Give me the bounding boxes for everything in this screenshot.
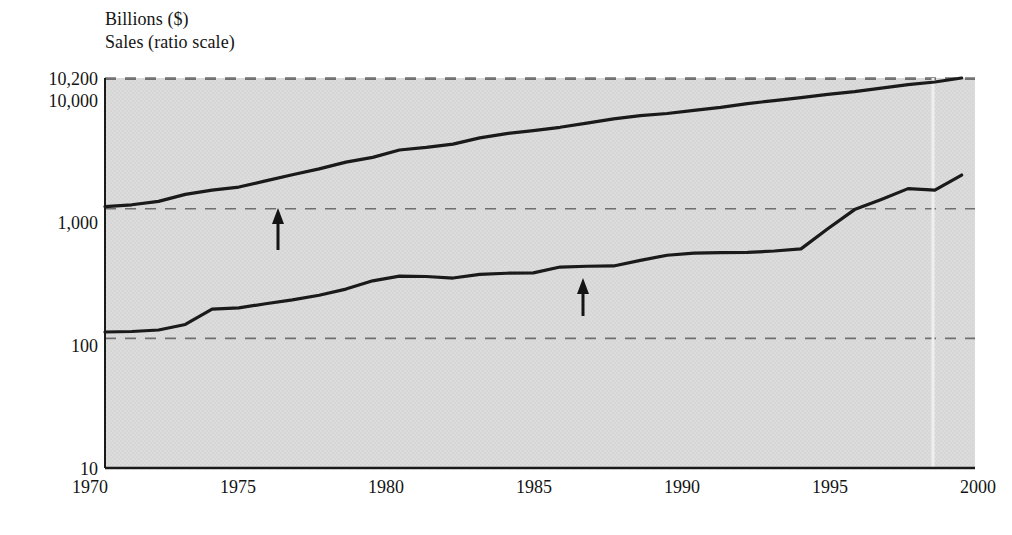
plot-area xyxy=(0,0,1012,535)
chart-figure: Billions ($) Sales (ratio scale) 10,200 … xyxy=(0,0,1012,535)
